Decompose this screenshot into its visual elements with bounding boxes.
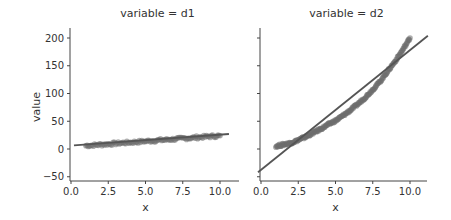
x-axis-title: x [142,201,149,214]
y-tick-label: 0 [58,144,64,155]
y-tick-label: 200 [45,33,64,44]
y-tick-label: 150 [45,60,64,71]
x-axis-title: x [332,201,339,214]
chart-svg: variable = d1−500501001502000.02.55.07.5… [0,0,451,220]
x-tick-label: 0.0 [63,186,79,197]
y-axis-title: value [30,92,43,122]
x-tick-label: 10.0 [399,186,421,197]
facet-chart: variable = d1−500501001502000.02.55.07.5… [0,0,451,220]
x-tick-label: 7.5 [365,186,381,197]
x-tick-label: 2.5 [100,186,116,197]
scatter-points [273,35,413,150]
y-tick-label: 50 [51,116,64,127]
y-tick-label: 100 [45,88,64,99]
x-tick-label: 5.0 [328,186,344,197]
regression-line [258,36,428,173]
panel-title: variable = d1 [120,7,195,20]
panel-d2: variable = d20.02.55.07.510.0x [253,7,428,214]
x-tick-label: 2.5 [290,186,306,197]
panel-d1: variable = d1−500501001502000.02.55.07.5… [43,7,239,214]
x-tick-label: 5.0 [138,186,154,197]
x-tick-label: 7.5 [175,186,191,197]
x-tick-label: 0.0 [253,186,269,197]
x-tick-label: 10.0 [209,186,231,197]
y-tick-label: −50 [43,171,64,182]
scatter-points [83,132,223,149]
panel-title: variable = d2 [309,7,384,20]
